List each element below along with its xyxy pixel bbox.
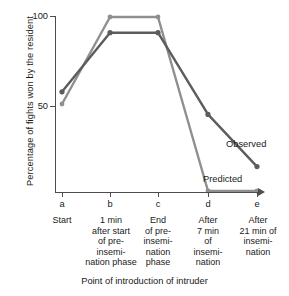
category-caption-e: After 21 min of insemi- nation <box>229 215 287 257</box>
category-caption-c-line1: End <box>134 215 182 226</box>
category-caption-c-line4: nation <box>134 247 182 258</box>
x-tick-label-b: b <box>90 199 130 209</box>
x-tick-label-d: d <box>188 199 228 209</box>
x-axis-arrow-icon <box>258 188 265 196</box>
x-tick-label-a: a <box>42 199 82 209</box>
data-point-observed-e <box>254 164 259 169</box>
category-caption-b-line2: after start <box>80 226 142 237</box>
category-caption-e-line4: nation <box>229 247 287 258</box>
data-point-predicted-c <box>156 15 161 20</box>
x-tick-label-e: e <box>237 199 277 209</box>
x-tick-a <box>62 192 63 197</box>
category-caption-e-line1: After <box>229 215 287 226</box>
category-caption-a: Start <box>38 215 86 226</box>
category-caption-d-line3: of <box>184 236 232 247</box>
category-caption-a-line1: Start <box>38 215 86 226</box>
category-caption-c: End of pre- insemi- nation phase <box>134 215 182 268</box>
category-caption-c-line5: phase <box>134 257 182 268</box>
x-tick-b <box>110 192 111 197</box>
series-line-predicted <box>62 17 257 191</box>
category-caption-e-line2: 21 min of <box>229 226 287 237</box>
category-caption-b-line5: nation phase <box>80 257 142 268</box>
y-tick-100 <box>50 16 55 17</box>
x-tick-c <box>158 192 159 197</box>
x-tick-e <box>257 192 258 197</box>
category-caption-b-line4: insemi- <box>80 247 142 258</box>
x-tick-label-c: c <box>138 199 178 209</box>
data-point-observed-d <box>205 112 210 117</box>
chart-figure: Percentage of fights won by the resident… <box>0 0 289 296</box>
category-caption-b: 1 min after start of pre- insemi- nation… <box>80 215 142 268</box>
x-tick-d <box>208 192 209 197</box>
y-tick-label-50: 50 <box>24 101 48 111</box>
category-caption-e-line3: insemi- <box>229 236 287 247</box>
data-point-predicted-b <box>108 15 113 20</box>
series-label-observed: Observed <box>226 139 266 149</box>
y-tick-50 <box>50 106 55 107</box>
category-caption-c-line2: of pre- <box>134 226 182 237</box>
category-caption-d-line5: nation <box>184 257 232 268</box>
series-label-predicted: Predicted <box>203 174 242 184</box>
y-tick-label-100: 100 <box>24 11 48 21</box>
data-point-observed-a <box>59 89 64 94</box>
x-axis-title: Point of introduction of intruder <box>0 276 289 286</box>
category-caption-d: After 7 min of insemi- nation <box>184 215 232 268</box>
data-point-predicted-a <box>60 102 65 107</box>
data-point-observed-c <box>155 30 160 35</box>
category-caption-d-line2: 7 min <box>184 226 232 237</box>
category-caption-d-line1: After <box>184 215 232 226</box>
y-axis-line <box>55 16 56 193</box>
category-caption-b-line3: of pre- <box>80 236 142 247</box>
data-point-observed-b <box>107 30 112 35</box>
category-caption-d-line4: insemi- <box>184 247 232 258</box>
category-caption-c-line3: insemi- <box>134 236 182 247</box>
category-caption-b-line1: 1 min <box>80 215 142 226</box>
